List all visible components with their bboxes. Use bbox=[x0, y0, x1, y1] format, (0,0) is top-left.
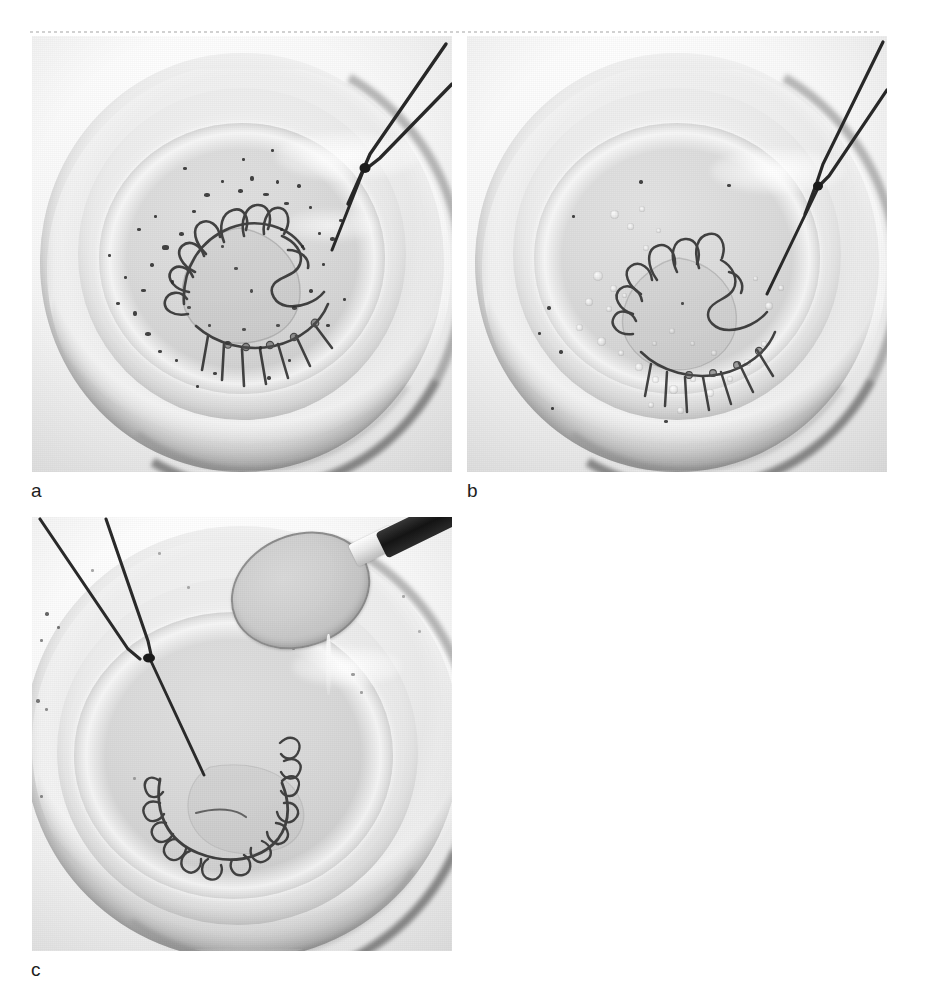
panel-label-c: c bbox=[31, 960, 41, 979]
panel-a-tweezers bbox=[32, 36, 452, 472]
panel-c-image bbox=[32, 517, 452, 951]
panel-b-tweezers bbox=[467, 36, 887, 472]
panel-label-a: a bbox=[31, 481, 42, 500]
panel-a-image bbox=[32, 36, 452, 472]
panel-c-tweezers bbox=[32, 517, 452, 951]
panel-b-image bbox=[467, 36, 887, 472]
scan-rule-divider bbox=[30, 31, 881, 33]
figure-root: a b c bbox=[0, 0, 925, 995]
panel-label-b: b bbox=[467, 481, 478, 500]
